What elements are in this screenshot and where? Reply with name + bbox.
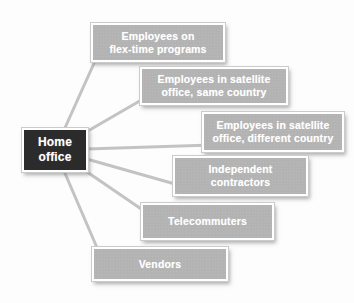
node-satellite-same-country: Employees in satellite office, same coun… (140, 67, 288, 105)
diagram-canvas: Home office Employees on flex-time progr… (0, 0, 354, 303)
node-flex-time-employees: Employees on flex-time programs (91, 23, 225, 62)
node-telecommuters: Telecommuters (141, 203, 274, 240)
node-satellite-same-line1: Employees in satellite (157, 73, 270, 86)
node-contractors-line1: Independent (208, 163, 272, 176)
node-satellite-different-line2: office, different country (212, 132, 333, 145)
node-vendors-line1: Vendors (139, 258, 181, 271)
node-home-office: Home office (22, 128, 88, 172)
node-home-office-line1: Home (38, 135, 72, 150)
node-vendors: Vendors (92, 247, 228, 281)
node-satellite-different-country: Employees in satellite office, different… (202, 112, 344, 152)
node-flex-time-line1: Employees on (122, 30, 195, 43)
node-independent-contractors: Independent contractors (173, 156, 308, 196)
node-telecommuters-line1: Telecommuters (168, 215, 247, 228)
node-satellite-same-line2: office, same country (161, 86, 266, 99)
node-flex-time-line2: flex-time programs (109, 43, 206, 56)
node-contractors-line2: contractors (211, 176, 270, 189)
node-home-office-line2: office (39, 150, 72, 165)
node-satellite-different-line1: Employees in satellite (216, 119, 329, 132)
